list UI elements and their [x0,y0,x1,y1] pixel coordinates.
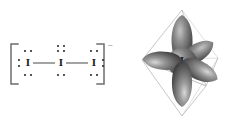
charge-superscript: − [107,40,112,50]
lewis-structure-panel: − I I I [0,0,122,127]
lone-pair-dot [57,45,59,47]
lone-pair-dot [30,74,32,76]
orbital-geometry-panel: I [120,0,244,127]
lone-pair-dot [18,59,20,61]
chemistry-figure: − I I I [0,0,244,127]
atom-label-right: I [92,56,96,68]
lewis-structure-svg: − I I I [0,0,122,127]
atom-label-left: I [26,56,30,68]
lone-pair-dot [57,74,59,76]
lone-pair-dot [24,74,26,76]
orbital-diagram-svg: I [120,0,244,127]
lone-pair-dot [24,50,26,52]
lone-pair-dot [90,74,92,76]
lone-pair-dot [57,50,59,52]
lone-pair-dot [63,50,65,52]
lone-pair-dot [18,65,20,67]
atom-label-center: I [59,56,63,68]
orbital-lobe-axial-bottom [172,62,192,107]
lone-pair-dot [102,59,104,61]
lone-pair-dot [63,74,65,76]
lone-pair-dot [63,45,65,47]
lone-pair-dot [90,50,92,52]
lone-pair-dot [30,50,32,52]
bracket-left [11,44,18,84]
bracket-right [97,44,104,84]
lone-pair-dot [102,65,104,67]
lone-pair-dot [96,50,98,52]
lone-pair-dot [96,74,98,76]
